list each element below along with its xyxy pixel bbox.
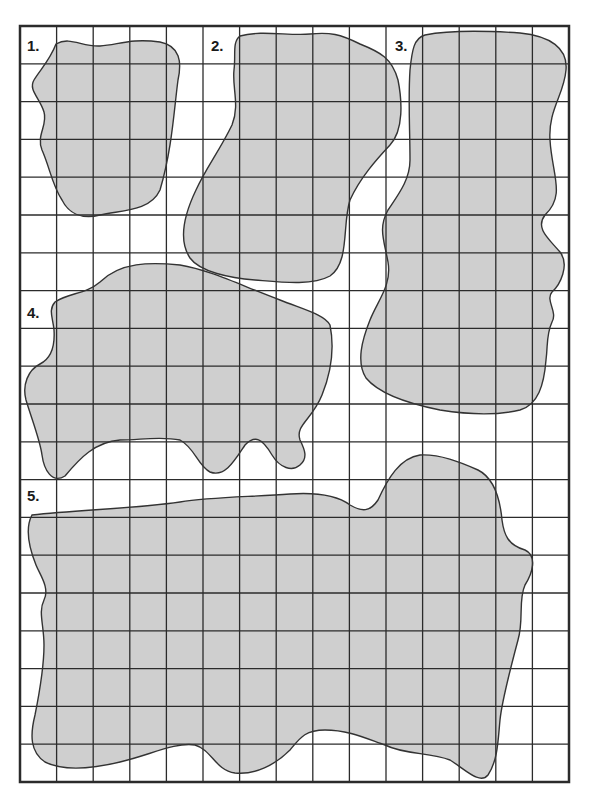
shape-2-label: 2. — [211, 37, 224, 54]
shape-3-label: 3. — [395, 37, 408, 54]
blob-shapes — [25, 31, 566, 778]
grid-worksheet: 1.2.3.4.5. — [0, 0, 593, 808]
shape-5-label: 5. — [27, 487, 40, 504]
shape-5-fill — [28, 455, 533, 778]
shape-2-fill — [183, 33, 400, 282]
shape-4-label: 4. — [27, 304, 40, 321]
shape-1-fill — [32, 41, 179, 217]
grid-lines — [20, 26, 569, 782]
shape-1-label: 1. — [27, 37, 40, 54]
